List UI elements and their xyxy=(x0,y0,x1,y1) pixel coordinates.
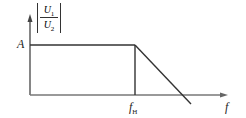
cutoff-label: fH xyxy=(129,100,137,116)
x-axis-arrow-icon xyxy=(220,93,228,98)
x-axis-label: f xyxy=(225,100,228,115)
level-label: A xyxy=(17,37,24,52)
y-axis-arrow-icon xyxy=(28,14,33,22)
fraction-bar xyxy=(40,17,58,18)
y-axis-label: U1 U2 xyxy=(37,3,61,33)
